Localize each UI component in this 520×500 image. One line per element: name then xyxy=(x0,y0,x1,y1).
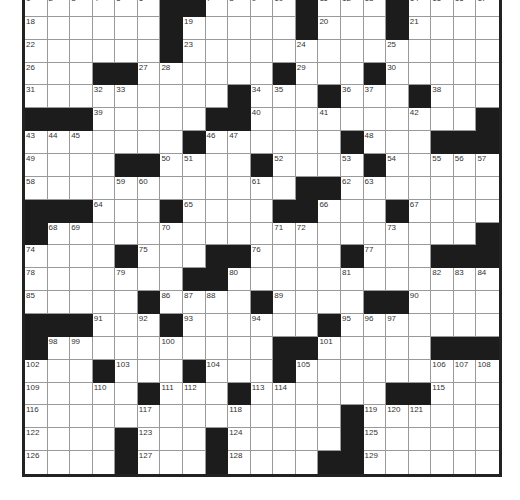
grid-cell[interactable] xyxy=(70,428,93,451)
grid-cell[interactable] xyxy=(454,177,477,200)
grid-cell[interactable] xyxy=(251,428,274,451)
grid-cell[interactable]: 80 xyxy=(228,268,251,291)
grid-cell[interactable] xyxy=(115,40,138,63)
grid-cell[interactable]: 61 xyxy=(251,177,274,200)
grid-cell[interactable]: 32 xyxy=(93,85,116,108)
grid-cell[interactable]: 114 xyxy=(273,383,296,406)
grid-cell[interactable]: 73 xyxy=(386,223,409,246)
grid-cell[interactable]: 35 xyxy=(273,85,296,108)
grid-cell[interactable]: 12 xyxy=(341,0,364,17)
grid-cell[interactable] xyxy=(228,154,251,177)
grid-cell[interactable]: 94 xyxy=(251,314,274,337)
grid-cell[interactable]: 111 xyxy=(160,383,183,406)
grid-cell[interactable] xyxy=(409,40,432,63)
grid-cell[interactable] xyxy=(70,291,93,314)
grid-cell[interactable] xyxy=(70,268,93,291)
grid-cell[interactable] xyxy=(273,268,296,291)
grid-cell[interactable]: 40 xyxy=(251,108,274,131)
grid-cell[interactable] xyxy=(431,200,454,223)
grid-cell[interactable]: 99 xyxy=(70,337,93,360)
grid-cell[interactable] xyxy=(476,314,499,337)
grid-cell[interactable]: 18 xyxy=(25,17,48,40)
grid-cell[interactable] xyxy=(431,17,454,40)
grid-cell[interactable] xyxy=(206,85,229,108)
grid-cell[interactable]: 126 xyxy=(25,451,48,474)
grid-cell[interactable] xyxy=(115,223,138,246)
grid-cell[interactable] xyxy=(206,223,229,246)
grid-cell[interactable] xyxy=(409,268,432,291)
grid-cell[interactable] xyxy=(386,131,409,154)
grid-cell[interactable] xyxy=(341,223,364,246)
grid-cell[interactable] xyxy=(228,200,251,223)
grid-cell[interactable]: 53 xyxy=(341,154,364,177)
grid-cell[interactable]: 64 xyxy=(93,200,116,223)
grid-cell[interactable]: 127 xyxy=(138,451,161,474)
grid-cell[interactable]: 82 xyxy=(431,268,454,291)
grid-cell[interactable] xyxy=(454,428,477,451)
grid-cell[interactable]: 31 xyxy=(25,85,48,108)
grid-cell[interactable]: 22 xyxy=(25,40,48,63)
grid-cell[interactable] xyxy=(228,337,251,360)
grid-cell[interactable]: 55 xyxy=(431,154,454,177)
grid-cell[interactable]: 45 xyxy=(70,131,93,154)
grid-cell[interactable]: 10 xyxy=(273,0,296,17)
grid-cell[interactable]: 69 xyxy=(70,223,93,246)
grid-cell[interactable] xyxy=(476,85,499,108)
grid-cell[interactable] xyxy=(228,360,251,383)
grid-cell[interactable]: 116 xyxy=(25,405,48,428)
grid-cell[interactable]: 110 xyxy=(93,383,116,406)
grid-cell[interactable] xyxy=(183,63,206,86)
grid-cell[interactable] xyxy=(93,223,116,246)
grid-cell[interactable] xyxy=(476,200,499,223)
grid-cell[interactable]: 96 xyxy=(364,314,387,337)
grid-cell[interactable] xyxy=(296,314,319,337)
grid-cell[interactable]: 75 xyxy=(138,245,161,268)
grid-cell[interactable]: 36 xyxy=(341,85,364,108)
grid-cell[interactable] xyxy=(115,108,138,131)
grid-cell[interactable] xyxy=(318,40,341,63)
grid-cell[interactable] xyxy=(138,40,161,63)
grid-cell[interactable] xyxy=(251,200,274,223)
grid-cell[interactable] xyxy=(364,223,387,246)
grid-cell[interactable] xyxy=(70,245,93,268)
grid-cell[interactable]: 17 xyxy=(476,0,499,17)
grid-cell[interactable]: 118 xyxy=(228,405,251,428)
grid-cell[interactable] xyxy=(454,40,477,63)
grid-cell[interactable]: 5 xyxy=(115,0,138,17)
grid-cell[interactable] xyxy=(48,360,71,383)
grid-cell[interactable] xyxy=(206,405,229,428)
grid-cell[interactable] xyxy=(296,268,319,291)
grid-cell[interactable] xyxy=(115,131,138,154)
grid-cell[interactable] xyxy=(364,383,387,406)
grid-cell[interactable]: 107 xyxy=(454,360,477,383)
grid-cell[interactable] xyxy=(409,451,432,474)
grid-cell[interactable] xyxy=(183,337,206,360)
grid-cell[interactable] xyxy=(318,223,341,246)
grid-cell[interactable]: 66 xyxy=(318,200,341,223)
grid-cell[interactable]: 52 xyxy=(273,154,296,177)
grid-cell[interactable] xyxy=(273,451,296,474)
grid-cell[interactable] xyxy=(454,85,477,108)
grid-cell[interactable] xyxy=(273,428,296,451)
grid-cell[interactable] xyxy=(228,63,251,86)
grid-cell[interactable] xyxy=(160,177,183,200)
grid-cell[interactable] xyxy=(431,108,454,131)
grid-cell[interactable] xyxy=(206,40,229,63)
grid-cell[interactable] xyxy=(273,177,296,200)
grid-cell[interactable] xyxy=(228,291,251,314)
grid-cell[interactable] xyxy=(476,428,499,451)
grid-cell[interactable]: 60 xyxy=(138,177,161,200)
grid-cell[interactable] xyxy=(48,17,71,40)
grid-cell[interactable] xyxy=(476,383,499,406)
grid-cell[interactable] xyxy=(48,85,71,108)
grid-cell[interactable]: 83 xyxy=(454,268,477,291)
grid-cell[interactable] xyxy=(318,360,341,383)
grid-cell[interactable] xyxy=(318,428,341,451)
grid-cell[interactable]: 77 xyxy=(364,245,387,268)
grid-cell[interactable] xyxy=(160,428,183,451)
grid-cell[interactable] xyxy=(296,245,319,268)
grid-cell[interactable]: 63 xyxy=(364,177,387,200)
grid-cell[interactable]: 90 xyxy=(409,291,432,314)
grid-cell[interactable] xyxy=(386,428,409,451)
grid-cell[interactable]: 4 xyxy=(93,0,116,17)
